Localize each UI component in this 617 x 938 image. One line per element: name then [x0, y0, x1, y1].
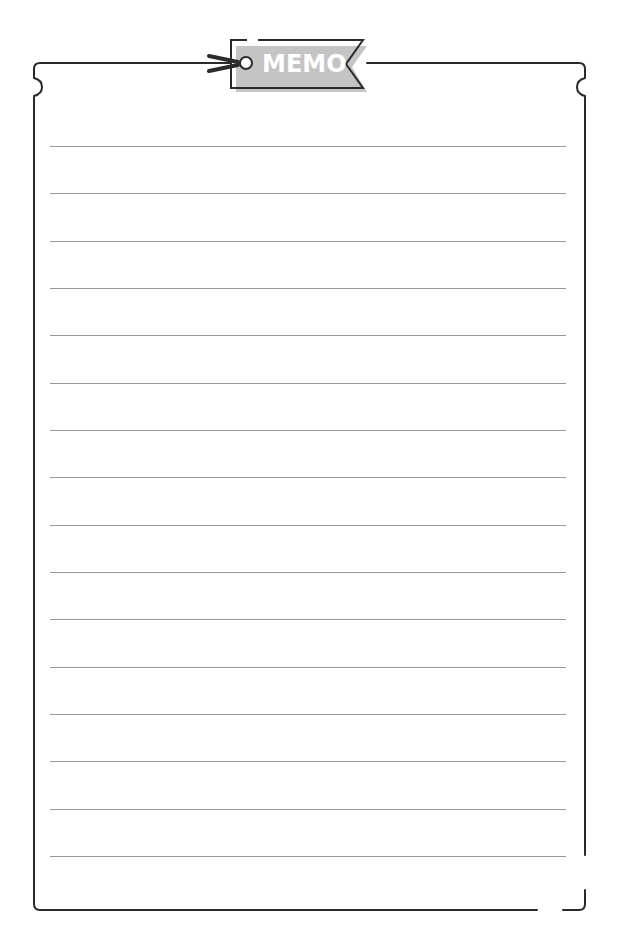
ruled-line — [50, 572, 566, 573]
memo-tag-label: MEMO — [262, 49, 347, 79]
ruled-line — [50, 383, 566, 384]
memo-frame — [0, 0, 617, 938]
ruled-line — [50, 619, 566, 620]
ruled-line — [50, 714, 566, 715]
ruled-line — [50, 525, 566, 526]
ruled-line — [50, 477, 566, 478]
ruled-line — [50, 335, 566, 336]
ruled-line — [50, 241, 566, 242]
ruled-line — [50, 146, 566, 147]
ruled-line — [50, 761, 566, 762]
tag-hole-icon — [240, 57, 252, 69]
ruled-line — [50, 193, 566, 194]
ruled-line — [50, 667, 566, 668]
ruled-line — [50, 288, 566, 289]
ruled-line — [50, 856, 566, 857]
ruled-line — [50, 430, 566, 431]
ruled-line — [50, 809, 566, 810]
